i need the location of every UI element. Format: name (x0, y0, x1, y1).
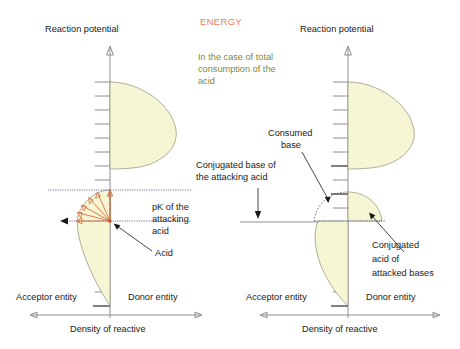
note-line-3: acid (198, 76, 215, 86)
pk-label-line-1: pK of the (152, 202, 189, 212)
right-acceptor-entity-label: Acceptor entity (246, 292, 307, 302)
right-x-axis-label: Density of reactive (302, 324, 378, 334)
note-line-1: In the case of total (198, 52, 273, 62)
conjugated-acid-label-line-2: acid of (372, 254, 400, 264)
conjugated-acid-label-line-1: Conjugated (372, 240, 419, 250)
conjugated-acid-label-line-3: attacked bases (372, 268, 434, 278)
left-x-axis-label: Density of reactive (70, 324, 146, 334)
consumed-base-leader (302, 152, 331, 203)
right-y-axis-label: Reaction potential (300, 24, 374, 34)
left-donor-entity-label: Donor entity (128, 292, 178, 302)
left-horizontal-axis (30, 312, 202, 318)
left-upper-lobe (110, 82, 176, 169)
acid-label: Acid (155, 248, 173, 258)
conjugated-base-leader (255, 188, 261, 219)
consumed-base-label-line-1: Consumed (268, 128, 312, 138)
conjugated-base-label-line-2: the attacking acid (196, 172, 268, 182)
left-panel: Reaction potential (16, 24, 202, 334)
right-lower-lobe (315, 221, 348, 306)
left-y-axis-label: Reaction potential (45, 24, 119, 34)
acid-base-energy-diagram: ENERGY In the case of total consumption … (0, 0, 460, 349)
right-horizontal-axis (260, 312, 440, 318)
left-acceptor-entity-label: Acceptor entity (16, 292, 77, 302)
pk-label-line-2: attacking (152, 214, 189, 224)
left-acid-leader (114, 224, 152, 251)
consumed-base-arc (314, 192, 348, 221)
note-line-2: consumption of the (198, 64, 276, 74)
right-donor-entity-label: Donor entity (366, 292, 416, 302)
figure-title: ENERGY (200, 16, 242, 27)
pk-label-line-3: acid (152, 226, 169, 236)
consumed-base-label-line-2: base (281, 140, 301, 150)
right-upper-lobe (348, 82, 414, 169)
right-dome-lobe (348, 192, 382, 221)
conjugated-base-label-line-1: Conjugated base of (196, 160, 276, 170)
